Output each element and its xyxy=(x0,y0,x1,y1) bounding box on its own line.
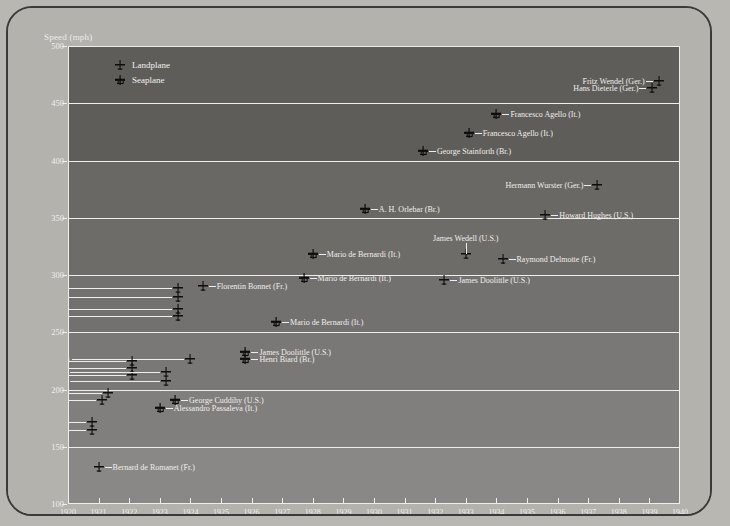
data-point-label: Francesco Agello (It.) xyxy=(483,129,553,138)
landplane-icon[interactable] xyxy=(87,424,98,435)
leader-line xyxy=(68,288,172,289)
landplane-icon[interactable] xyxy=(93,462,104,473)
x-tick xyxy=(160,498,161,504)
x-tick xyxy=(405,498,406,504)
x-tick-label: 1920 xyxy=(60,508,76,514)
leader-line xyxy=(181,400,188,401)
data-point-label: James Doolittle (U.S.) xyxy=(458,275,530,284)
y-tick-label: 350 xyxy=(38,213,64,223)
y-tick-label: 150 xyxy=(38,442,64,452)
x-tick-label: 1937 xyxy=(580,508,596,514)
leader-line xyxy=(466,243,467,254)
seaplane-icon[interactable] xyxy=(359,203,370,214)
x-tick-label: 1924 xyxy=(182,508,198,514)
leader-line xyxy=(450,280,457,281)
seaplane-icon[interactable] xyxy=(491,108,502,119)
leader-line xyxy=(282,322,289,323)
landplane-icon[interactable] xyxy=(127,369,138,380)
y-axis-labels: 500450400350300250200150100 xyxy=(36,46,64,504)
y-tick xyxy=(62,390,67,391)
leader-line xyxy=(584,185,591,186)
leader-line xyxy=(68,422,86,423)
data-point-label: Florentin Bonnet (Fr.) xyxy=(217,282,287,291)
plot-left-border xyxy=(68,46,69,504)
x-tick xyxy=(466,498,467,504)
x-tick xyxy=(619,498,620,504)
leader-line xyxy=(68,297,172,298)
landplane-icon[interactable] xyxy=(185,353,196,364)
plot-area: Fritz Wendel (Ger.)Hans Dieterle (Ger.)F… xyxy=(68,46,680,504)
y-tick-label: 200 xyxy=(38,385,64,395)
x-tick xyxy=(282,498,283,504)
x-tick xyxy=(649,498,650,504)
x-axis-labels: 1920192119221923192419251926192719281929… xyxy=(68,508,680,514)
y-tick xyxy=(62,46,67,47)
x-tick-label: 1936 xyxy=(550,508,566,514)
landplane-icon[interactable] xyxy=(173,291,184,302)
leader-line xyxy=(209,286,216,287)
x-tick-label: 1925 xyxy=(213,508,229,514)
leader-line xyxy=(70,372,160,373)
leader-line xyxy=(70,381,160,382)
seaplane-icon[interactable] xyxy=(271,316,282,327)
x-tick-label: 1926 xyxy=(244,508,260,514)
data-point-label: Mario de Bernardi (It.) xyxy=(318,274,391,283)
leader-line xyxy=(371,209,378,210)
leader-line xyxy=(475,133,482,134)
seaplane-icon[interactable] xyxy=(298,273,309,284)
seaplane-icon[interactable] xyxy=(154,402,165,413)
data-point-label: Mario de Bernardi (It.) xyxy=(327,250,400,259)
leader-line xyxy=(251,359,258,360)
figure-canvas: Speed (mph) 500450400350300250200150100 … xyxy=(8,8,710,514)
x-tick-label: 1921 xyxy=(91,508,107,514)
landplane-icon[interactable] xyxy=(197,281,208,292)
data-point-label: Howard Hughes (U.S.) xyxy=(559,211,633,220)
landplane-icon[interactable] xyxy=(96,394,107,405)
landplane-icon[interactable] xyxy=(439,274,450,285)
leader-line xyxy=(68,368,126,369)
x-tick xyxy=(527,498,528,504)
landplane-icon[interactable] xyxy=(497,253,508,264)
landplane-icon[interactable] xyxy=(592,179,603,190)
legend-label-seaplane: Seaplane xyxy=(132,73,164,88)
x-tick-label: 1932 xyxy=(427,508,443,514)
leader-line xyxy=(68,361,126,362)
speed-band xyxy=(68,390,680,447)
seaplane-icon[interactable] xyxy=(463,128,474,139)
landplane-icon[interactable] xyxy=(647,83,658,94)
y-tick xyxy=(62,504,67,505)
x-tick-label: 1939 xyxy=(641,508,657,514)
x-tick xyxy=(190,498,191,504)
leader-line xyxy=(639,88,646,89)
seaplane-icon xyxy=(115,75,126,86)
leader-line xyxy=(429,151,436,152)
y-tick-label: 400 xyxy=(38,156,64,166)
seaplane-icon[interactable] xyxy=(307,249,318,260)
y-tick-label: 250 xyxy=(38,327,64,337)
chart-figure: Speed (mph) 500450400350300250200150100 … xyxy=(0,0,730,526)
x-tick xyxy=(313,498,314,504)
leader-line xyxy=(319,254,326,255)
data-point-label: Hermann Wurster (Ger.) xyxy=(505,180,583,189)
seaplane-icon[interactable] xyxy=(417,146,428,157)
landplane-icon[interactable] xyxy=(540,210,551,221)
speed-band xyxy=(68,275,680,332)
x-tick-label: 1940 xyxy=(672,508,688,514)
legend-label-landplane: Landplane xyxy=(132,58,170,73)
x-tick xyxy=(374,498,375,504)
landplane-icon[interactable] xyxy=(173,311,184,322)
x-tick-label: 1935 xyxy=(519,508,535,514)
data-point-label: George Stainforth (Br.) xyxy=(437,147,511,156)
landplane-icon xyxy=(115,60,126,71)
seaplane-icon[interactable] xyxy=(240,353,251,364)
leader-line xyxy=(251,352,258,353)
x-tick-label: 1931 xyxy=(397,508,413,514)
leader-line xyxy=(68,400,96,401)
landplane-icon[interactable] xyxy=(160,376,171,387)
x-tick xyxy=(68,498,69,504)
y-tick xyxy=(62,161,67,162)
data-point-label: Henri Biard (Br.) xyxy=(259,354,314,363)
x-tick xyxy=(588,498,589,504)
y-tick-label: 300 xyxy=(38,270,64,280)
x-tick-label: 1929 xyxy=(335,508,351,514)
